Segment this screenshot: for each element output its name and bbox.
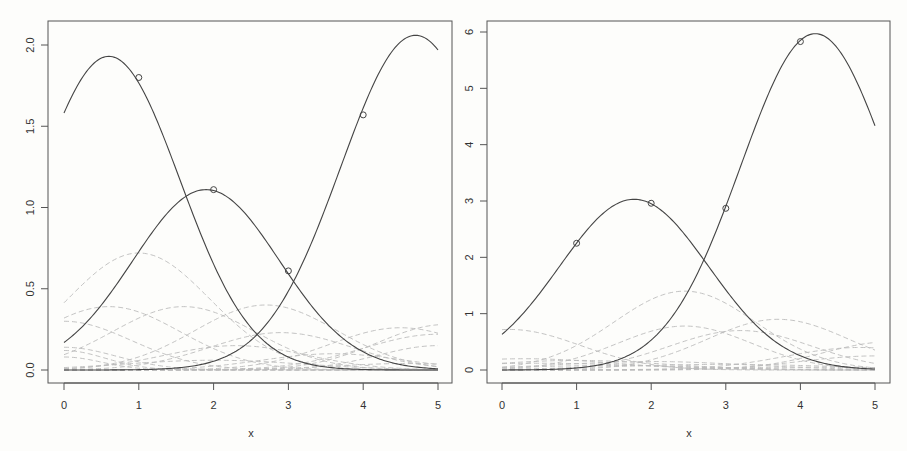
right-background-curves bbox=[502, 291, 875, 370]
main-curve-curve-1 bbox=[502, 199, 875, 369]
background-curve bbox=[64, 307, 438, 370]
right-main-curves bbox=[502, 34, 875, 370]
x-tick-label: 3 bbox=[285, 399, 291, 411]
x-tick-label: 4 bbox=[360, 399, 366, 411]
main-curve-curve-1 bbox=[64, 56, 438, 370]
data-point-marker bbox=[360, 112, 366, 118]
x-tick-label: 4 bbox=[797, 399, 803, 411]
right-x-axis: 012345 bbox=[499, 383, 878, 411]
x-tick-label: 2 bbox=[211, 399, 217, 411]
x-tick-label: 2 bbox=[648, 399, 654, 411]
x-tick-label: 3 bbox=[723, 399, 729, 411]
left-data-markers bbox=[136, 75, 366, 274]
right-plot-frame bbox=[487, 21, 890, 383]
left-x-axis: 012345 bbox=[61, 383, 441, 411]
y-tick-label: 3 bbox=[463, 198, 475, 204]
x-tick-label: 5 bbox=[872, 399, 878, 411]
right-x-axis-label: x bbox=[686, 427, 692, 439]
y-tick-label: 1.5 bbox=[24, 119, 36, 134]
x-tick-label: 1 bbox=[136, 399, 142, 411]
x-tick-label: 5 bbox=[435, 399, 441, 411]
background-curve bbox=[64, 307, 438, 370]
y-tick-label: 0.5 bbox=[24, 281, 36, 296]
right-y-axis: 0123456 bbox=[463, 29, 487, 373]
left-background-curves bbox=[64, 253, 438, 370]
data-point-marker bbox=[136, 75, 142, 81]
left-main-curves bbox=[64, 35, 438, 370]
left-plot-panel: 012345 0.00.51.01.52.0 x bbox=[24, 21, 452, 439]
y-tick-label: 4 bbox=[463, 142, 475, 148]
x-tick-label: 1 bbox=[574, 399, 580, 411]
y-tick-label: 2.0 bbox=[24, 37, 36, 52]
left-y-axis: 0.00.51.01.52.0 bbox=[24, 37, 48, 377]
y-tick-label: 1 bbox=[463, 311, 475, 317]
chart-canvas: 012345 0.00.51.01.52.0 x 012345 0123456 … bbox=[0, 0, 907, 451]
main-curve-curve-3 bbox=[64, 35, 438, 370]
y-tick-label: 5 bbox=[463, 85, 475, 91]
y-tick-label: 6 bbox=[463, 29, 475, 35]
main-curve-curve-2 bbox=[502, 34, 875, 370]
left-x-axis-label: x bbox=[248, 427, 254, 439]
right-plot-panel: 012345 0123456 x bbox=[463, 21, 890, 439]
background-curve bbox=[64, 346, 438, 370]
y-tick-label: 0.0 bbox=[24, 362, 36, 377]
y-tick-label: 1.0 bbox=[24, 200, 36, 215]
right-data-markers bbox=[574, 39, 804, 247]
x-tick-label: 0 bbox=[499, 399, 505, 411]
x-tick-label: 0 bbox=[61, 399, 67, 411]
y-tick-label: 2 bbox=[463, 254, 475, 260]
background-curve bbox=[502, 326, 875, 369]
background-curve bbox=[502, 291, 875, 368]
main-curve-curve-2 bbox=[64, 190, 438, 369]
y-tick-label: 0 bbox=[463, 367, 475, 373]
